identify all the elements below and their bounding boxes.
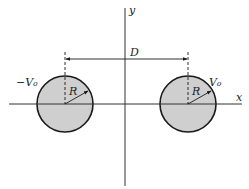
right-potential-label: V₀ <box>209 76 222 89</box>
x-axis-label: x <box>236 91 243 104</box>
right-radius-label: R <box>191 85 200 98</box>
two-cylinders-diagram: y x D −V₀ V₀ R R <box>0 0 249 189</box>
left-potential-label: −V₀ <box>16 76 38 89</box>
left-radius-label: R <box>68 85 77 98</box>
y-axis-label: y <box>128 4 136 17</box>
separation-label: D <box>129 46 139 59</box>
